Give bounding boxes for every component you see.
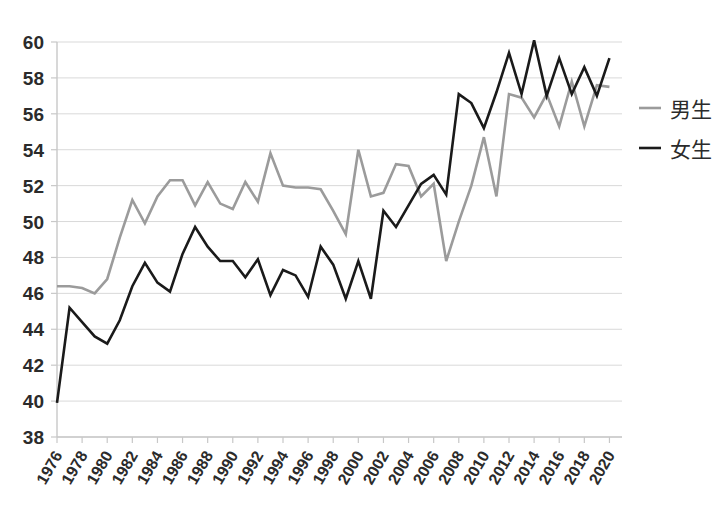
y-tick-label-40: 40 [23,391,44,412]
legend-label-male: 男生 [670,98,712,121]
chart-legend: 男生女生 [639,98,712,161]
y-tick-label-54: 54 [23,140,45,161]
y-tick-label-52: 52 [23,176,44,197]
y-tick-label-56: 56 [23,104,44,125]
chart-canvas: 384042444648505254565860 197619781980198… [0,0,722,507]
y-axis-labels: 384042444648505254565860 [23,32,45,448]
x-tick-label-2020: 2020 [586,448,619,487]
y-tick-label-38: 38 [23,427,44,448]
gridlines [57,42,622,437]
y-tick-label-48: 48 [23,247,44,268]
y-tick-label-46: 46 [23,283,44,304]
line-chart: 384042444648505254565860 197619781980198… [0,0,722,507]
y-tick-label-50: 50 [23,212,44,233]
y-tick-label-58: 58 [23,68,44,89]
legend-label-female: 女生 [670,138,712,161]
series-line-male [57,82,609,294]
x-axis-labels: 1976197819801982198419861988199019921994… [33,448,618,487]
y-tick-label-42: 42 [23,355,44,376]
y-tick-label-44: 44 [23,319,45,340]
y-tick-label-60: 60 [23,32,44,53]
